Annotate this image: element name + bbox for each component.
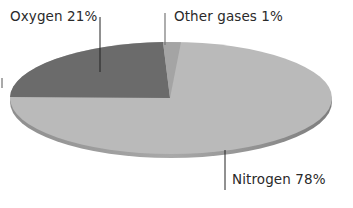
label-nitrogen: Nitrogen 78% xyxy=(232,171,326,187)
label-other-gases: Other gases 1% xyxy=(174,8,283,24)
slice-oxygen xyxy=(10,42,170,98)
label-oxygen: Oxygen 21% xyxy=(10,8,97,24)
pie-chart: Oxygen 21% Other gases 1% Nitrogen 78% xyxy=(0,0,353,208)
